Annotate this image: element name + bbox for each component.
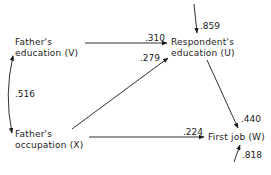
node-v-line1: Father's	[15, 37, 78, 48]
node-fathers-education: Father's education (V)	[15, 37, 78, 59]
arrow-x-to-u	[72, 58, 168, 129]
arrow-residual-to-w	[234, 145, 240, 162]
arrow-u-to-w	[207, 60, 238, 128]
coef-x-to-u: .279	[140, 53, 160, 63]
node-respondents-education: Respondent's education (U)	[171, 37, 235, 59]
node-v-line2: education (V)	[15, 48, 78, 59]
node-fathers-occupation: Father's occupation (X)	[15, 129, 83, 151]
arrow-residual-to-u	[194, 4, 197, 33]
coef-x-to-w: .224	[183, 127, 203, 137]
node-x-line1: Father's	[15, 129, 83, 140]
coef-residual-w: .818	[242, 150, 262, 160]
node-x-line2: occupation (X)	[15, 140, 83, 151]
node-u-line2: education (U)	[171, 48, 235, 59]
node-w-line1: First job (W)	[208, 132, 265, 143]
coef-u-to-w: .440	[241, 114, 261, 124]
curved-double-arrow-v-x	[8, 56, 13, 133]
coef-residual-u: .859	[200, 21, 220, 31]
coef-v-to-u: .310	[145, 33, 165, 43]
node-first-job: First job (W)	[208, 132, 265, 143]
coef-v-x-correlation: .516	[15, 89, 35, 99]
node-u-line1: Respondent's	[171, 37, 235, 48]
